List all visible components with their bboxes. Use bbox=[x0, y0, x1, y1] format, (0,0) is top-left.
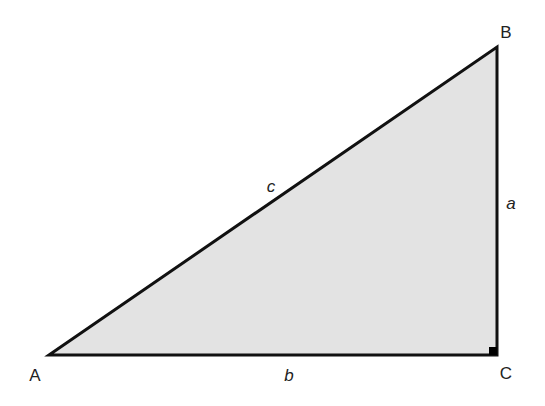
side-label-b: b bbox=[284, 367, 293, 384]
vertex-label-a: A bbox=[29, 367, 40, 384]
vertex-label-b: B bbox=[500, 24, 511, 41]
right-angle-marker bbox=[489, 347, 497, 355]
side-label-a: a bbox=[506, 195, 515, 212]
side-label-c: c bbox=[267, 178, 276, 195]
triangle-abc bbox=[49, 47, 497, 355]
vertex-label-c: C bbox=[500, 365, 512, 382]
triangle-diagram bbox=[0, 0, 545, 406]
